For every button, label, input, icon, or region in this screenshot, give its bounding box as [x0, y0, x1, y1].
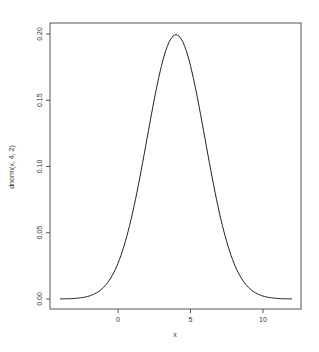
- plot-box: [50, 23, 301, 309]
- x-tick-label: 5: [189, 316, 193, 323]
- y-tick-label: 0.15: [36, 93, 43, 107]
- y-tick-label: 0.10: [36, 160, 43, 174]
- density-curve: [60, 35, 292, 299]
- y-axis: 0.000.050.100.150.20: [36, 27, 50, 306]
- x-axis: 0510: [116, 309, 267, 323]
- y-axis-title: dnorm(x, 4, 2): [8, 145, 16, 189]
- y-tick-label: 0.00: [36, 292, 43, 306]
- x-tick-label: 10: [259, 316, 267, 323]
- chart-canvas: 0.000.050.100.150.20 0510 x dnorm(x, 4, …: [0, 0, 319, 352]
- x-tick-label: 0: [116, 316, 120, 323]
- x-axis-title: x: [173, 331, 177, 338]
- y-tick-label: 0.05: [36, 226, 43, 240]
- y-tick-label: 0.20: [36, 27, 43, 41]
